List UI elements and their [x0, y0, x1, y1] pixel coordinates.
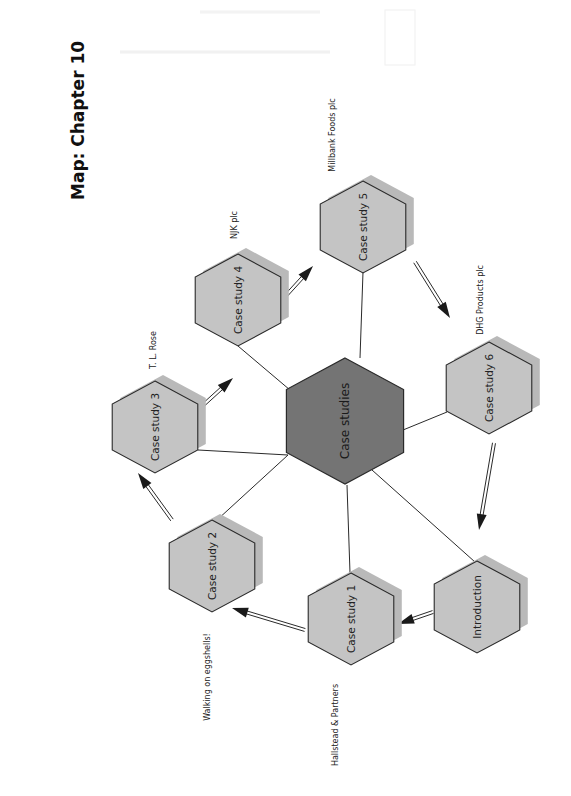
page-title: Map: Chapter 10: [68, 41, 88, 200]
hex-label: Case study 2: [206, 532, 218, 600]
spoke-cs3: [198, 450, 288, 455]
arrow-cs5-to-cs6: [414, 261, 450, 318]
hex-label: Case study 3: [149, 393, 161, 461]
arrow-intro-to-cs1: [398, 611, 433, 624]
hex-label: Case study 1: [345, 585, 357, 653]
hex-cs4: Case study 4: [195, 248, 289, 346]
hex-cs3: Case study 3: [112, 375, 206, 473]
hex-label: Case study 4: [232, 266, 244, 334]
hex-cs1: Case study 1: [308, 567, 402, 665]
company-label: DHG Products plc: [476, 265, 485, 335]
company-label: Walking on eggshells!: [203, 633, 212, 721]
arrow-cs1-to-cs2: [232, 608, 305, 632]
chapter-map-page: Map: Chapter 10 Case studiesIntroduction…: [0, 0, 571, 796]
hex-cs2: Case study 2: [169, 514, 263, 612]
arrow-cs2-to-cs3: [138, 473, 173, 521]
hexagon-nodes: Case studiesIntroductionCase study 1Case…: [112, 175, 540, 665]
spoke-cs1: [347, 485, 350, 573]
center-label: Case studies: [338, 383, 352, 459]
chapter-map-diagram: Map: Chapter 10 Case studiesIntroduction…: [0, 0, 571, 796]
arrow-cs6-to-intro: [477, 443, 496, 530]
spoke-intro: [372, 470, 475, 562]
spoke-cs5: [360, 272, 363, 358]
hex-label: Introduction: [471, 575, 483, 639]
bleed-through: [120, 10, 415, 65]
hex-cs6: Case study 6: [446, 336, 540, 434]
hex-intro: Introduction: [434, 555, 528, 653]
company-label: NJK plc: [230, 211, 239, 239]
spoke-cs6: [403, 412, 447, 430]
company-label: T. L. Rose: [149, 331, 158, 370]
company-label: Hallstead & Partners: [331, 684, 340, 766]
hex-label: Case study 5: [357, 193, 369, 261]
spoke-cs2: [217, 455, 288, 520]
company-label: Millbank Foods plc: [328, 98, 337, 171]
hex-cs5: Case study 5: [320, 175, 414, 273]
spoke-cs4: [238, 346, 290, 390]
hex-label: Case study 6: [483, 354, 495, 422]
hex-case-studies-center: Case studies: [286, 358, 403, 484]
